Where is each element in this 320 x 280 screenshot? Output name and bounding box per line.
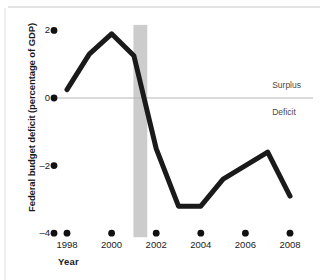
- x-tick-label: 2006: [225, 239, 265, 250]
- y-tick-label: –4: [26, 227, 50, 238]
- x-axis-title: Year: [58, 256, 79, 267]
- annotation-surplus: Surplus: [272, 80, 301, 90]
- chart-figure: 20–2–4 199820002002200420062008 SurplusD…: [0, 0, 320, 280]
- x-tick-label: 1998: [47, 239, 87, 250]
- x-tick-label: 2002: [136, 239, 176, 250]
- deficit-series-line: [67, 34, 290, 206]
- x-tick-label: 2004: [181, 239, 221, 250]
- x-tick-label: 2000: [92, 239, 132, 250]
- y-axis-tick-dots: [51, 27, 58, 237]
- x-tick-label: 2008: [270, 239, 310, 250]
- y-axis-title: Federal budget deficit (percentage of GD…: [26, 8, 37, 228]
- x-axis-tick-dots: [64, 230, 294, 237]
- annotation-deficit: Deficit: [272, 107, 296, 117]
